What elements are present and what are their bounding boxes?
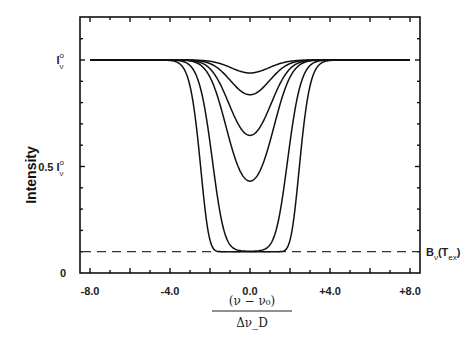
profile-curves — [90, 60, 410, 252]
y-tick-labels: Iνo0.5 Iνo0 — [38, 51, 66, 279]
y-tick-label: 0 — [60, 267, 66, 279]
profile-curve-tau_30 — [90, 60, 410, 252]
x-tick-label: -8.0 — [81, 285, 100, 297]
plot-frame — [80, 17, 420, 273]
x-tick-label: +8.0 — [399, 285, 421, 297]
source-function-label: Bν(Tex) — [426, 246, 461, 262]
profile-curve-tau_0.07 — [90, 60, 410, 73]
line-profile-chart: -8.0-4.00.0+4.0+8.0 Iνo0.5 Iνo0 Intensit… — [0, 0, 475, 343]
profile-curve-tau_0.2 — [90, 60, 410, 95]
x-tick-label: +4.0 — [319, 285, 341, 297]
profile-curve-tau_0.5 — [90, 60, 410, 135]
y-tick-label: Iνo — [56, 51, 64, 71]
y-tick-label: 0.5 Iνo — [38, 158, 64, 178]
x-axis-title: (ν − ν₀) Δν_D — [212, 294, 292, 330]
x-tick-label: -4.0 — [161, 285, 180, 297]
profile-curve-tau_1 — [90, 60, 410, 181]
y-axis-title: Intensity — [23, 146, 39, 204]
svg-text:(ν − ν₀): (ν − ν₀) — [229, 294, 275, 308]
axis-ticks — [80, 17, 420, 273]
profile-curve-tau_6 — [90, 60, 410, 251]
svg-text:Δν_D: Δν_D — [236, 316, 268, 330]
